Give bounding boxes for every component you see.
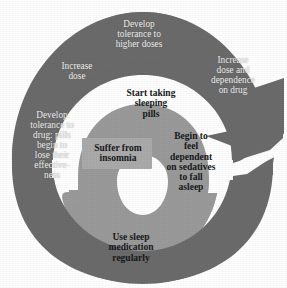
spiral-channel-right bbox=[209, 160, 233, 180]
spiral-channel-left bbox=[52, 160, 78, 178]
spiral-cycle-diagram: Develop tolerance to higher doses Increa… bbox=[0, 0, 287, 288]
insomnia-label-plate bbox=[82, 138, 152, 169]
